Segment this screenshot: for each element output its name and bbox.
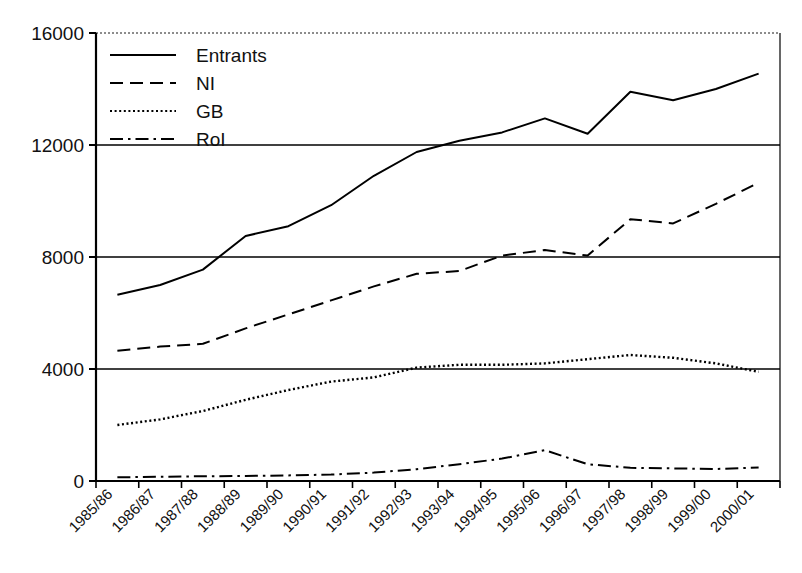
x-tick-label: 1991/92 bbox=[322, 485, 372, 535]
x-tick-label: 1998/99 bbox=[621, 485, 671, 535]
y-tick-label: 0 bbox=[73, 471, 84, 492]
x-tick-label: 1996/97 bbox=[535, 485, 585, 535]
legend-label-roi: RoI bbox=[196, 129, 226, 150]
series-line-gb bbox=[117, 355, 758, 425]
series-line-ni bbox=[117, 183, 758, 351]
x-axis-labels: 1985/861986/871987/881988/891989/901990/… bbox=[65, 485, 757, 535]
legend-label-ni: NI bbox=[196, 73, 215, 94]
y-tick-label: 4000 bbox=[42, 359, 84, 380]
x-tick-label: 2000/01 bbox=[706, 485, 756, 535]
legend: EntrantsNIGBRoI bbox=[110, 45, 267, 150]
y-tick-label: 16000 bbox=[31, 23, 84, 44]
y-tick-label: 8000 bbox=[42, 247, 84, 268]
x-tick-label: 1987/88 bbox=[151, 485, 201, 535]
chart-canvas: 04000800012000160001985/861986/871987/88… bbox=[0, 0, 802, 573]
x-tick-label: 1995/96 bbox=[493, 485, 543, 535]
series-line-roi bbox=[117, 450, 758, 477]
legend-label-gb: GB bbox=[196, 101, 223, 122]
x-tick-label: 1999/00 bbox=[664, 485, 714, 535]
x-tick-label: 1990/91 bbox=[279, 485, 329, 535]
x-tick-label: 1986/87 bbox=[108, 485, 158, 535]
line-chart: 04000800012000160001985/861986/871987/88… bbox=[0, 0, 802, 573]
x-tick-label: 1997/98 bbox=[578, 485, 628, 535]
x-tick-label: 1988/89 bbox=[193, 485, 243, 535]
y-tick-label: 12000 bbox=[31, 135, 84, 156]
x-tick-label: 1985/86 bbox=[65, 485, 115, 535]
x-tick-label: 1989/90 bbox=[236, 485, 286, 535]
legend-label-entrants: Entrants bbox=[196, 45, 267, 66]
x-tick-label: 1992/93 bbox=[364, 485, 414, 535]
y-axis-ticks: 0400080001200016000 bbox=[31, 23, 96, 492]
x-tick-label: 1993/94 bbox=[407, 485, 457, 535]
x-tick-label: 1994/95 bbox=[450, 485, 500, 535]
